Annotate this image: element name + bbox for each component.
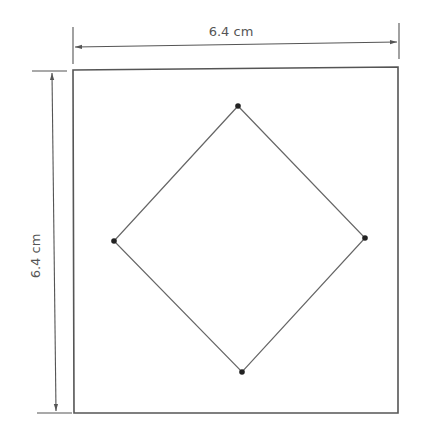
- vertex-bottom-point: [239, 369, 245, 375]
- width-dimension-label: 6.4 cm: [209, 24, 254, 39]
- inner-diamond: [114, 106, 365, 372]
- vertex-right-point: [362, 235, 368, 241]
- height-dimension-label: 6.4 cm: [28, 234, 43, 279]
- diagram-canvas: 6.4 cm 6.4 cm: [0, 0, 422, 425]
- vertex-left-point: [111, 238, 117, 244]
- outer-square: [73, 67, 398, 413]
- width-dimension-line: [75, 42, 397, 47]
- vertex-top-point: [235, 103, 241, 109]
- height-dimension-line: [52, 73, 56, 411]
